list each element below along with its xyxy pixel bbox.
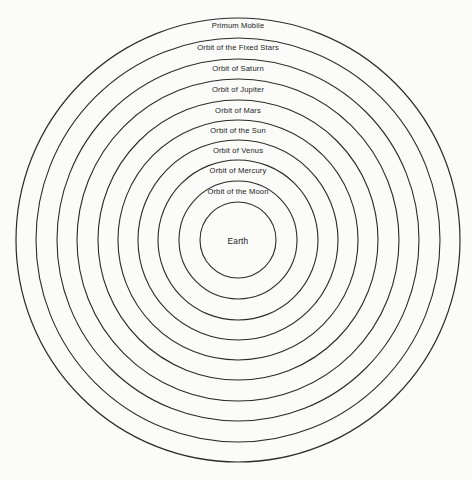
sphere-label-jupiter: Orbit of Jupiter — [212, 85, 265, 94]
sphere-label-mars: Orbit of Mars — [215, 106, 261, 115]
geocentric-diagram: Primum Mobile Orbit of the Fixed Stars O… — [0, 0, 472, 480]
sphere-label-fixed-stars: Orbit of the Fixed Stars — [197, 43, 279, 52]
sphere-label-mercury: Orbit of Mercury — [210, 166, 267, 175]
sphere-label-venus: Orbit of Venus — [213, 146, 263, 155]
sphere-label-earth: Earth — [228, 236, 249, 246]
sphere-label-moon: Orbit of the Moon — [207, 187, 268, 196]
sphere-label-saturn: Orbit of Saturn — [212, 64, 264, 73]
celestial-spheres-svg: Primum Mobile Orbit of the Fixed Stars O… — [0, 0, 472, 480]
sphere-label-sun: Orbit of the Sun — [210, 126, 266, 135]
sphere-label-primum-mobile: Primum Mobile — [212, 21, 265, 30]
